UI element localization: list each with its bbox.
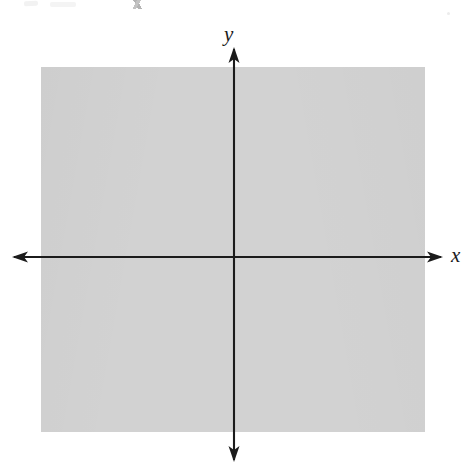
y-axis-top-arrowhead-icon bbox=[229, 47, 240, 63]
y-axis-label: y bbox=[224, 24, 233, 45]
graph-paper-panel bbox=[41, 67, 425, 432]
scan-artifact-smudge-icon bbox=[50, 2, 76, 7]
scan-artifact-speck-icon bbox=[447, 12, 450, 15]
grid-vertical-lines bbox=[41, 67, 425, 432]
x-axis-label: x bbox=[451, 245, 460, 266]
coordinate-grid-figure: y x bbox=[0, 0, 467, 469]
x-axis-right-arrowhead-icon bbox=[427, 252, 443, 263]
grid-horizontal-lines bbox=[41, 67, 425, 432]
scan-artifact-partial-glyph-icon bbox=[128, 0, 144, 9]
scan-shading-overlay bbox=[41, 67, 425, 432]
y-axis-bottom-arrowhead-icon bbox=[229, 446, 240, 462]
scan-artifact-smudge-icon bbox=[24, 1, 38, 7]
x-axis-left-arrowhead-icon bbox=[12, 252, 28, 263]
